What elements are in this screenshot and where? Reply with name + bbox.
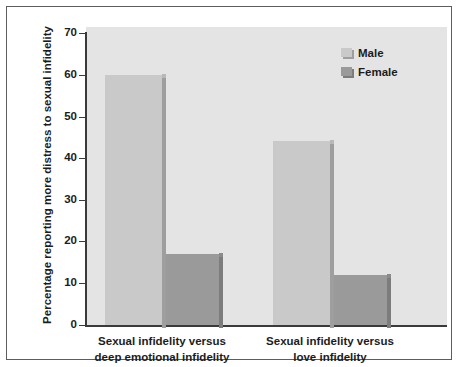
bar-female-category-2 (334, 275, 387, 325)
legend-label-female: Female (358, 67, 398, 79)
bar-male-category-1 (105, 75, 162, 325)
y-tick-10 (79, 283, 86, 284)
y-axis-title: Percentage reporting more distress to se… (41, 25, 53, 325)
legend-item-female: Female (341, 64, 398, 81)
x-axis-line (85, 325, 447, 327)
bar-face (105, 75, 162, 325)
category-label-1-line2: deep emotional infidelity (92, 350, 232, 366)
category-label-2-line2: love infidelity (260, 350, 400, 366)
bar-face (273, 141, 330, 325)
chart-legend: Male Female (341, 45, 398, 83)
legend-label-male: Male (358, 48, 384, 60)
bar-face (334, 275, 387, 325)
legend-item-male: Male (341, 45, 398, 62)
figure-frame: 70 60 50 40 30 20 10 0 Percentage report… (6, 6, 452, 360)
category-label-2: Sexual infidelity versus love infidelity (260, 334, 400, 365)
bar-side-face (387, 278, 391, 328)
bar-female-category-1 (166, 254, 219, 325)
category-label-2-line1: Sexual infidelity versus (260, 334, 400, 350)
y-tick-60 (79, 75, 86, 76)
bar-male-category-2 (273, 141, 330, 325)
y-tick-20 (79, 241, 86, 242)
y-tick-40 (79, 158, 86, 159)
y-tick-50 (79, 117, 86, 118)
category-label-1: Sexual infidelity versus deep emotional … (92, 334, 232, 365)
legend-swatch-male-icon (341, 48, 354, 59)
y-tick-70 (79, 33, 86, 34)
category-label-1-line1: Sexual infidelity versus (92, 334, 232, 350)
bar-side-face (219, 257, 223, 328)
y-tick-30 (79, 200, 86, 201)
chart-figure: 70 60 50 40 30 20 10 0 Percentage report… (0, 0, 459, 367)
bar-face (166, 254, 219, 325)
legend-swatch-female-icon (341, 67, 354, 78)
y-tick-0 (79, 325, 86, 326)
